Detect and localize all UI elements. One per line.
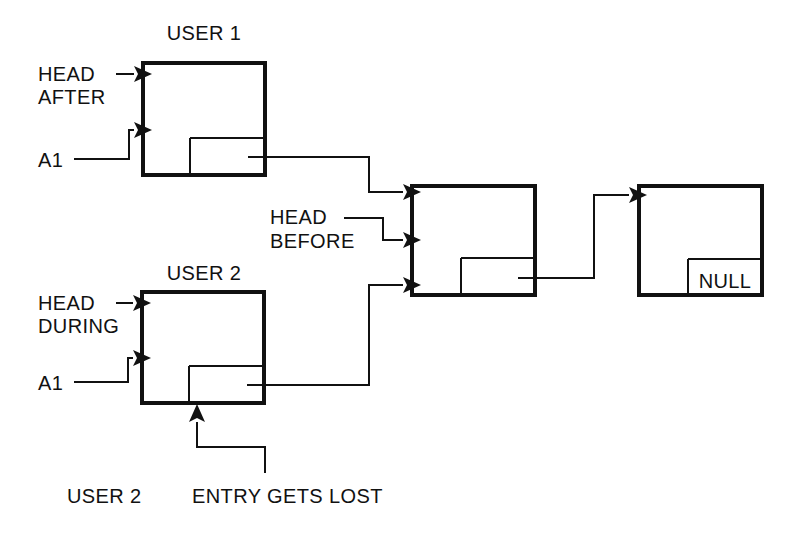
head-after-label-line2: AFTER	[38, 86, 106, 108]
diagram-canvas: NULL	[0, 0, 807, 538]
footer-entry-lost-label: ENTRY GETS LOST	[192, 485, 383, 507]
user1-title-label: USER 1	[167, 22, 242, 44]
footer-user2-label: USER 2	[67, 485, 142, 507]
a1-top-arrow	[74, 122, 152, 159]
null-label: NULL	[699, 270, 752, 292]
a1-top-label: A1	[38, 149, 63, 171]
user1-node-group	[143, 63, 266, 175]
user2-node	[142, 292, 264, 403]
tail-node-group: NULL	[639, 186, 763, 295]
user1-node	[143, 63, 265, 175]
head-before-arrow	[344, 218, 421, 248]
head-before-label-line1: HEAD	[270, 206, 327, 228]
a1-bottom-label: A1	[38, 372, 63, 394]
entry-lost-arrow	[189, 404, 265, 473]
user2-title-label: USER 2	[167, 262, 242, 284]
head-before-label-line2: BEFORE	[270, 230, 355, 252]
user2-next-arrow	[247, 277, 421, 385]
diagram-svg: NULL	[0, 0, 807, 538]
shared-next-arrow	[518, 187, 647, 278]
head-during-label-line2: DURING	[38, 315, 119, 337]
user1-next-arrow	[248, 157, 421, 200]
head-during-label-line1: HEAD	[38, 292, 95, 314]
user2-node-group	[142, 292, 265, 403]
shared-node-group	[412, 186, 536, 295]
head-after-label-line1: HEAD	[38, 63, 95, 85]
arrowhead-icon	[189, 404, 205, 422]
a1-bottom-arrow	[74, 350, 151, 382]
shared-node	[412, 186, 535, 295]
